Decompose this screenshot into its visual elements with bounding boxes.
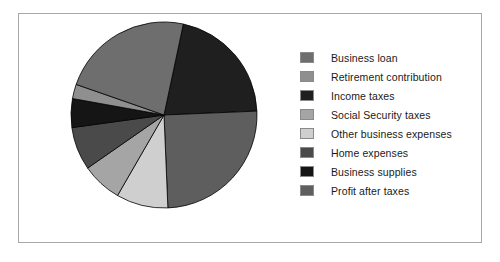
legend-item[interactable]: Profit after taxes [300, 181, 475, 200]
legend-item[interactable]: Business loan [300, 48, 475, 67]
chart-legend: Business loan Retirement contribution In… [300, 48, 475, 200]
legend-swatch-income-taxes [300, 90, 314, 101]
legend-swatch-social-security-taxes [300, 109, 314, 120]
legend-label-social-security-taxes: Social Security taxes [331, 109, 431, 121]
legend-item[interactable]: Social Security taxes [300, 105, 475, 124]
legend-label-profit-after-taxes: Profit after taxes [331, 185, 409, 197]
pie-slice-group [71, 22, 257, 208]
legend-label-income-taxes: Income taxes [331, 90, 395, 102]
legend-swatch-home-expenses [300, 147, 314, 158]
pie-chart [69, 20, 259, 210]
legend-swatch-retirement-contribution [300, 71, 314, 82]
legend-swatch-profit-after-taxes [300, 185, 314, 196]
pie-slice-profit-after-taxes[interactable] [164, 111, 257, 208]
legend-item[interactable]: Retirement contribution [300, 67, 475, 86]
legend-label-retirement-contribution: Retirement contribution [331, 71, 442, 83]
legend-label-home-expenses: Home expenses [331, 147, 408, 159]
legend-item[interactable]: Home expenses [300, 143, 475, 162]
pie-chart-svg [69, 20, 259, 210]
legend-label-other-business-expenses: Other business expenses [331, 128, 452, 140]
legend-item[interactable]: Income taxes [300, 86, 475, 105]
legend-item[interactable]: Business supplies [300, 162, 475, 181]
legend-swatch-business-supplies [300, 166, 314, 177]
chart-figure-frame: Business loan Retirement contribution In… [18, 13, 482, 243]
legend-item[interactable]: Other business expenses [300, 124, 475, 143]
legend-swatch-business-loan [300, 52, 314, 63]
legend-label-business-supplies: Business supplies [331, 166, 417, 178]
legend-swatch-other-business-expenses [300, 128, 314, 139]
legend-label-business-loan: Business loan [331, 52, 398, 64]
